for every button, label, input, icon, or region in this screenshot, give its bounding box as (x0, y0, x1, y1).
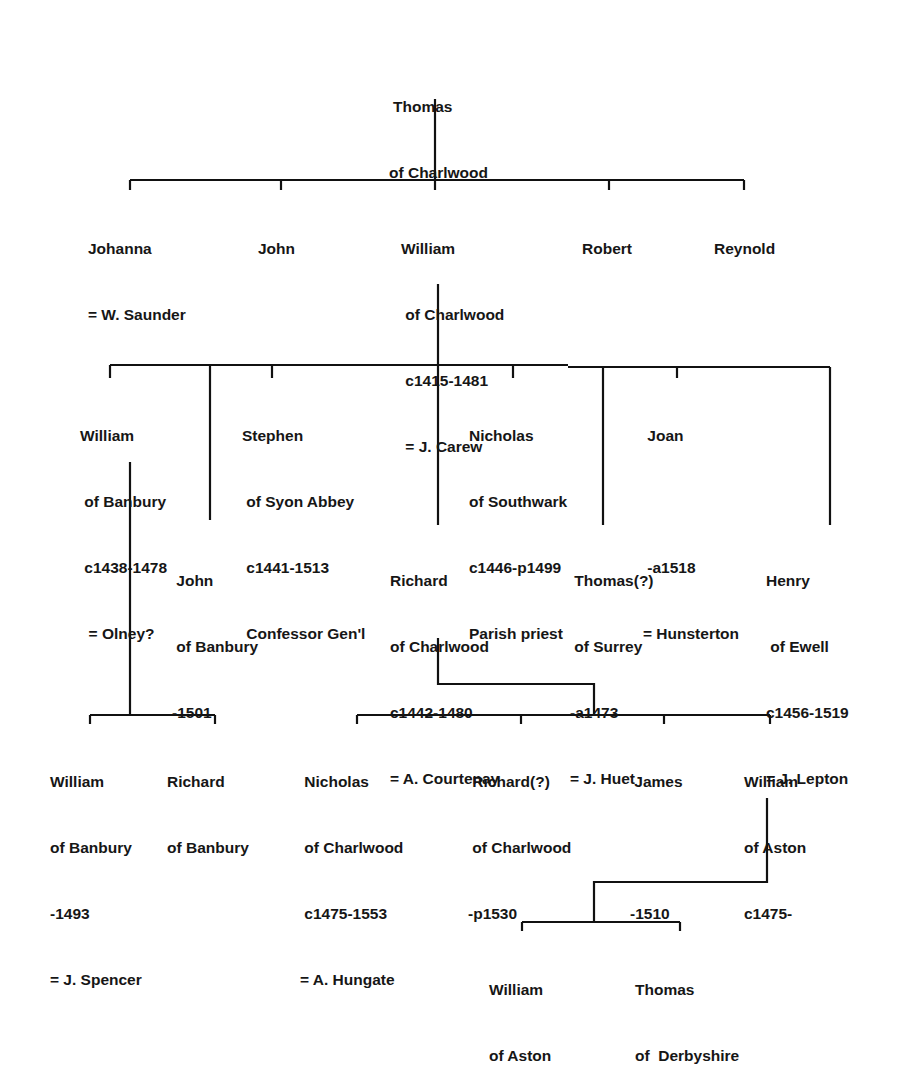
person-name: Thomas(?) (570, 570, 654, 592)
person-dates: -1501 (172, 702, 258, 724)
person-name: Thomas (391, 96, 488, 118)
person-place: of Charlwood (300, 837, 403, 859)
person-place: of Charlwood (390, 636, 499, 658)
person-dates: -p1530 (468, 903, 571, 925)
person-dates: c1475-1553 (300, 903, 403, 925)
person-richard-q-of-charlwood: Richard(?) of Charlwood -p1530 (468, 727, 571, 947)
person-name: Joan (643, 425, 739, 447)
person-note: Confessor Gen'l (242, 623, 365, 645)
person-william-of-aston: William of Aston c1475- (744, 727, 806, 947)
person-name: William (489, 979, 570, 1001)
person-dates: c1441-1513 (242, 557, 365, 579)
person-stephen-of-syon-abbey: Stephen of Syon Abbey c1441-1513 Confess… (242, 381, 365, 667)
person-name: John (172, 570, 258, 592)
person-place: of Banbury (50, 837, 142, 859)
person-robert: Robert (582, 194, 632, 282)
person-place: of Aston (489, 1045, 570, 1067)
person-place: of Charlwood (389, 162, 488, 184)
person-blank (643, 491, 739, 513)
person-name: William (80, 425, 167, 447)
person-place: of Southwark (469, 491, 567, 513)
person-name: Nicholas (300, 771, 403, 793)
person-john: John (258, 194, 295, 282)
person-joan: Joan -a1518 = Hunsterton (643, 381, 739, 667)
person-place: of Charlwood (468, 837, 571, 859)
person-richard-of-banbury: Richard of Banbury (167, 727, 249, 881)
person-name: William (744, 771, 806, 793)
person-place: of Syon Abbey (242, 491, 365, 513)
person-spouse: = J. Spencer (50, 969, 142, 991)
person-name: Robert (582, 238, 632, 260)
person-spouse: = W. Saunder (88, 304, 186, 326)
person-thomas-of-derbyshire: Thomas of Derbyshire c1500-1558 = Gresle… (635, 935, 739, 1077)
person-name: John (258, 238, 295, 260)
person-dates: -1510 (630, 903, 683, 925)
person-dates: -1493 (50, 903, 142, 925)
person-name: Richard (167, 771, 249, 793)
person-johanna: Johanna = W. Saunder (88, 194, 186, 348)
person-dates: -a1518 (643, 557, 739, 579)
person-william-of-banbury: William of Banbury c1438-1478 = Olney? (80, 381, 167, 667)
person-dates: c1442-1480 (390, 702, 499, 724)
person-name: Thomas (635, 979, 739, 1001)
person-name: Richard(?) (468, 771, 571, 793)
person-dates: c1438-1478 (80, 557, 167, 579)
person-place: of Banbury (80, 491, 167, 513)
person-reynold: Reynold (714, 194, 775, 282)
person-place: of Ewell (766, 636, 849, 658)
person-dates: -a1473 (570, 702, 654, 724)
person-spouse: = A. Hungate (300, 969, 403, 991)
person-name: Reynold (714, 238, 775, 260)
person-name: Richard (390, 570, 499, 592)
person-james: James -1510 (630, 727, 683, 947)
person-name: William (401, 238, 504, 260)
person-nicholas-of-charlwood: Nicholas of Charlwood c1475-1553 = A. Hu… (300, 727, 403, 1013)
person-spouse: = Hunsterton (643, 623, 739, 645)
person-place: of Charlwood (401, 304, 504, 326)
person-place: of Banbury (172, 636, 258, 658)
person-dates: c1456-1519 (766, 702, 849, 724)
person-william-of-banbury-jr: William of Banbury -1493 = J. Spencer (50, 727, 142, 1013)
person-name: Stephen (242, 425, 365, 447)
person-spouse: = Olney? (80, 623, 167, 645)
person-thomas-of-charlwood: Thomas of Charlwood (391, 52, 488, 206)
person-name: Henry (766, 570, 849, 592)
person-name: Johanna (88, 238, 186, 260)
person-dates: c1475- (744, 903, 806, 925)
person-name: Nicholas (469, 425, 567, 447)
person-william-of-aston-jr: William of Aston c1500- = E. Mynne (489, 935, 570, 1077)
person-place: of Aston (744, 837, 806, 859)
person-blank (630, 837, 683, 859)
person-place: of Banbury (167, 837, 249, 859)
person-name: James (630, 771, 683, 793)
person-place: of Derbyshire (635, 1045, 739, 1067)
person-place: of Surrey (570, 636, 654, 658)
person-john-of-banbury: John of Banbury -1501 (172, 526, 258, 746)
person-name: William (50, 771, 142, 793)
